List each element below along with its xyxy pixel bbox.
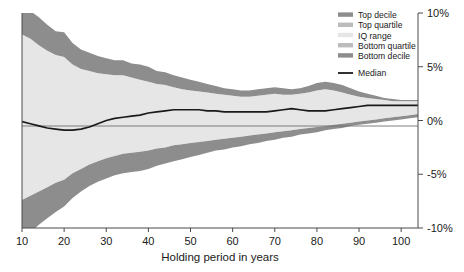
legend-swatch-top-quartile	[338, 23, 353, 27]
legend-swatch-top-decile	[338, 12, 353, 16]
y-tick-label-5pct: 5%	[427, 61, 443, 73]
y-tick-label-0pct: 0%	[427, 115, 443, 127]
legend-label-iq-range: IQ range	[358, 31, 392, 41]
legend-label-top-quartile: Top quartile	[358, 20, 403, 30]
chart-canvas: 102030405060708090100 10%5%0%-5%-10% Hol…	[0, 0, 464, 272]
y-tick-label-10pct: 10%	[427, 7, 449, 19]
legend-label-median: Median	[358, 68, 386, 78]
x-tick-label-50: 50	[184, 235, 196, 247]
y-tick-label--10pct: -10%	[427, 222, 453, 234]
legend-label-bottom-quartile: Bottom quartile	[358, 41, 416, 51]
legend-label-bottom-decile: Bottom decile	[358, 51, 410, 61]
legend-swatch-bottom-decile	[338, 53, 353, 57]
x-tick-label-80: 80	[311, 235, 323, 247]
x-tick-label-20: 20	[58, 235, 70, 247]
y-tick-label--5pct: -5%	[427, 168, 447, 180]
x-tick-label-90: 90	[353, 235, 365, 247]
legend-label-top-decile: Top decile	[358, 10, 397, 20]
fan-chart: 102030405060708090100 10%5%0%-5%-10% Hol…	[0, 0, 464, 272]
x-tick-label-60: 60	[227, 235, 239, 247]
x-tick-label-40: 40	[142, 235, 154, 247]
x-tick-label-10: 10	[16, 235, 28, 247]
legend-swatch-iq-range	[338, 33, 353, 37]
legend-swatch-bottom-quartile	[338, 43, 353, 47]
x-tick-label-70: 70	[269, 235, 281, 247]
x-tick-label-30: 30	[100, 235, 112, 247]
x-tick-label-100: 100	[392, 235, 410, 247]
x-axis-title: Holding period in years	[161, 251, 279, 263]
